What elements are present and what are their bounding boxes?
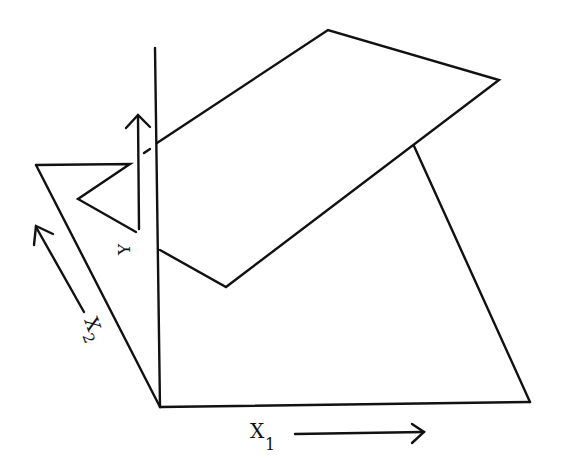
x1-axis-label: X 1 — [250, 419, 275, 454]
x2-arrow-icon — [34, 226, 84, 312]
x2-axis-line — [36, 165, 160, 407]
x1-arrow-icon — [295, 424, 424, 443]
regression-plane-diagram: Y X 2 X 1 — [0, 0, 561, 466]
x2-axis-label: X 2 — [74, 314, 109, 346]
y-axis-label: Y — [114, 243, 134, 256]
y-arrow-icon — [126, 115, 150, 229]
x2-label-subscript: 2 — [78, 331, 98, 346]
x1-label-main: X — [250, 419, 265, 443]
regression-plane — [157, 30, 499, 287]
plane-hidden-dash — [144, 149, 150, 153]
x1-label-subscript: 1 — [265, 435, 275, 454]
plane-left-fold — [36, 164, 136, 232]
floor-back-edge — [414, 146, 530, 402]
vertical-axis-line — [155, 48, 160, 407]
x1-axis-line — [160, 402, 530, 407]
